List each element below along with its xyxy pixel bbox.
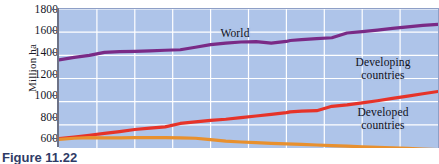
series-label-developing-countries: Developing countries bbox=[333, 56, 433, 82]
series-label-developing-line1: Developing bbox=[355, 56, 410, 68]
series-label-developing-line2: countries bbox=[361, 69, 405, 81]
series-label-developed-line1: Developed bbox=[357, 106, 408, 118]
figure-caption-text: Figure 11.22 bbox=[2, 152, 77, 164]
series-label-developed-line2: countries bbox=[361, 119, 405, 131]
figure-container: Million ha 1800 1600 1400 1200 1000 800 … bbox=[0, 0, 439, 164]
figure-caption: Figure 11.22 bbox=[0, 152, 200, 164]
series-label-world: World bbox=[200, 27, 270, 40]
series-label-developed-countries: Developed countries bbox=[333, 106, 433, 132]
series-label-world-text: World bbox=[220, 27, 249, 39]
